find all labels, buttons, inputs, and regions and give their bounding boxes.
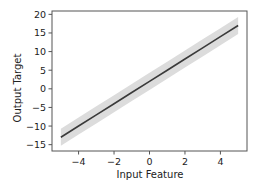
- x-tick-label: 0: [146, 156, 152, 167]
- chart: −4−2024 −15−10−505101520 Input Feature O…: [0, 0, 260, 190]
- x-axis-label: Input Feature: [117, 169, 184, 180]
- x-tick-label: 4: [217, 156, 223, 167]
- y-tick-label: −5: [32, 102, 46, 113]
- x-tick-label: −2: [107, 156, 121, 167]
- plot-area: [61, 17, 238, 146]
- y-tick-label: −10: [26, 121, 46, 132]
- x-axis-ticks: −4−2024: [72, 151, 224, 167]
- y-axis-ticks: −15−10−505101520: [26, 9, 52, 150]
- x-tick-label: −4: [72, 156, 86, 167]
- y-tick-label: 10: [34, 46, 46, 57]
- y-tick-label: −15: [26, 139, 46, 150]
- y-tick-label: 0: [40, 83, 46, 94]
- y-tick-label: 5: [40, 65, 46, 76]
- y-tick-label: 15: [34, 27, 46, 38]
- regression-line: [61, 26, 238, 138]
- x-tick-label: 2: [182, 156, 188, 167]
- y-tick-label: 20: [34, 9, 46, 20]
- y-axis-label: Output Target: [12, 53, 23, 122]
